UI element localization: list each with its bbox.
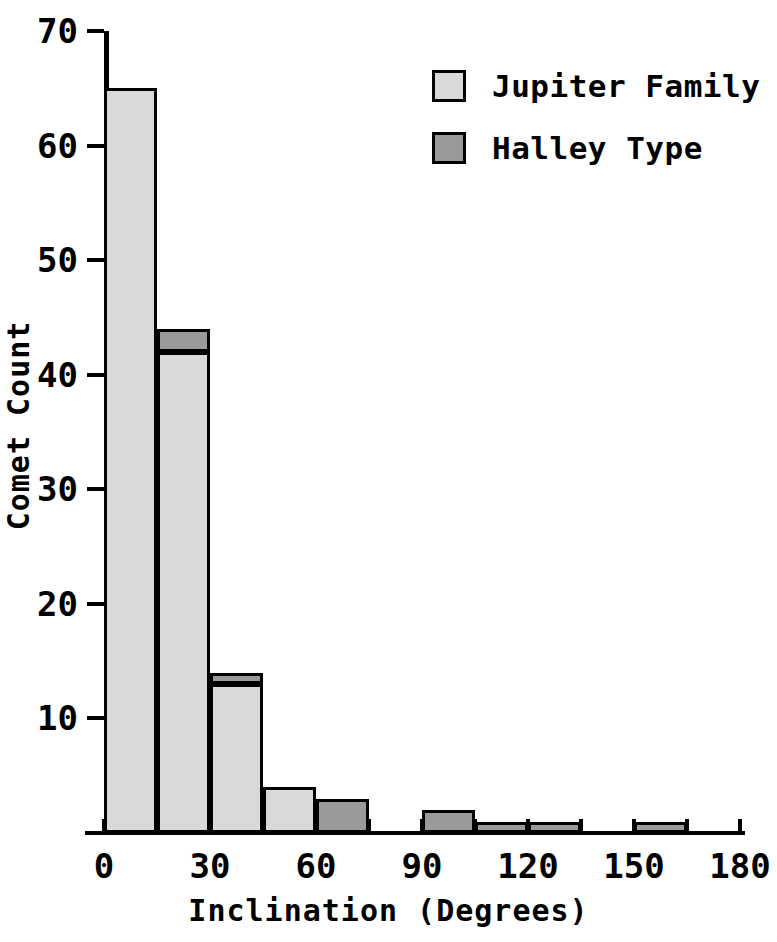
bar-halley-type bbox=[422, 810, 475, 833]
legend-swatch-halley-type bbox=[432, 132, 466, 164]
bar-halley-type bbox=[528, 822, 581, 833]
legend-item-halley-type: Halley Type bbox=[432, 122, 762, 174]
legend-item-jupiter-family: Jupiter Family bbox=[432, 60, 762, 112]
y-tick-label: 60 bbox=[0, 129, 78, 163]
y-tick-mark bbox=[87, 716, 104, 720]
bar-halley-type bbox=[634, 822, 687, 833]
x-tick-label: 180 bbox=[709, 848, 770, 884]
bar-jupiter-family bbox=[210, 684, 263, 833]
y-tick-mark bbox=[87, 487, 104, 491]
y-tick-mark bbox=[87, 144, 104, 148]
bar-jupiter-family bbox=[263, 787, 316, 833]
comet-inclination-histogram: 10203040506070 0306090120150180 Comet Co… bbox=[0, 0, 777, 942]
legend-label-jupiter-family: Jupiter Family bbox=[492, 68, 760, 104]
x-tick-label: 120 bbox=[497, 848, 558, 884]
x-tick-label: 60 bbox=[296, 848, 337, 884]
y-tick-label: 10 bbox=[0, 701, 78, 735]
legend-swatch-jupiter-family bbox=[432, 70, 466, 102]
x-tick-label: 150 bbox=[603, 848, 664, 884]
x-axis-title: Inclination (Degrees) bbox=[0, 893, 777, 928]
y-tick-mark bbox=[87, 29, 104, 33]
y-tick-mark bbox=[87, 373, 104, 377]
bar-halley-type bbox=[157, 329, 210, 352]
y-tick-mark bbox=[87, 602, 104, 606]
bar-halley-type bbox=[210, 673, 263, 684]
y-tick-label: 70 bbox=[0, 14, 78, 48]
bar-halley-type bbox=[316, 799, 369, 833]
y-axis-title: Comet Count bbox=[1, 176, 36, 676]
bar-halley-type bbox=[475, 822, 528, 833]
legend: Jupiter Family Halley Type bbox=[432, 60, 762, 184]
legend-label-halley-type: Halley Type bbox=[492, 130, 703, 166]
y-tick-mark bbox=[87, 258, 104, 262]
x-tick-label: 90 bbox=[402, 848, 443, 884]
x-tick-label: 30 bbox=[190, 848, 231, 884]
bar-jupiter-family bbox=[104, 88, 157, 833]
bar-jupiter-family bbox=[157, 352, 210, 833]
x-tick-label: 0 bbox=[94, 848, 114, 884]
